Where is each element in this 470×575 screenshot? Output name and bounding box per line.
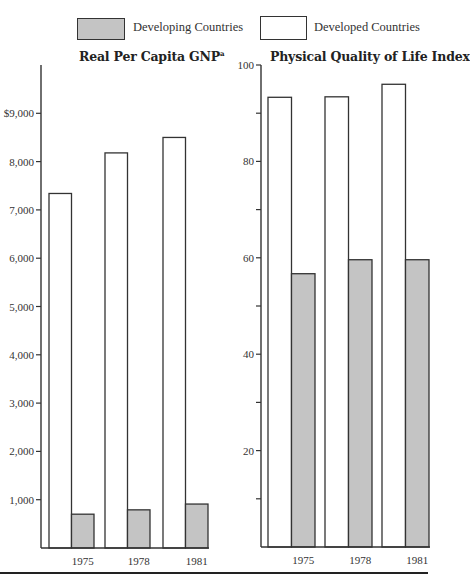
y-tick-label: 40 [243, 348, 255, 360]
x-tick-label: 1978 [349, 554, 372, 566]
bars-pqli [268, 84, 429, 547]
bar-developed-countries-1978 [325, 97, 349, 547]
bottom-rule [0, 572, 428, 574]
y-tick-label: 20 [243, 445, 255, 457]
y-tick-label: 60 [243, 252, 255, 264]
y-tick-label: 100 [238, 59, 255, 71]
x-axis-pqli-labels: 197519781981 [292, 554, 428, 566]
bar-developing-countries-1981 [406, 260, 430, 547]
x-tick-label: 1975 [292, 554, 315, 566]
y-axis-pqli-ticks: 20406080100 [238, 59, 262, 499]
bar-developed-countries-1981 [382, 84, 406, 547]
y-tick-label: 80 [243, 155, 255, 167]
bar-developing-countries-1975 [292, 274, 316, 547]
bar-developing-countries-1978 [349, 260, 373, 547]
bar-developed-countries-1975 [268, 97, 292, 547]
x-tick-label: 1981 [406, 554, 428, 566]
